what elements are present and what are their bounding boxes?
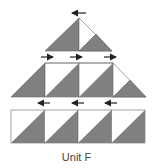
top-row — [45, 13, 112, 51]
diagram-caption: Unit F — [0, 151, 153, 163]
quilt-unit-diagram — [0, 0, 153, 150]
middle-row — [11, 57, 146, 97]
dark-triangle — [45, 18, 79, 51]
dark-triangle — [11, 63, 45, 97]
bottom-row — [11, 103, 145, 143]
